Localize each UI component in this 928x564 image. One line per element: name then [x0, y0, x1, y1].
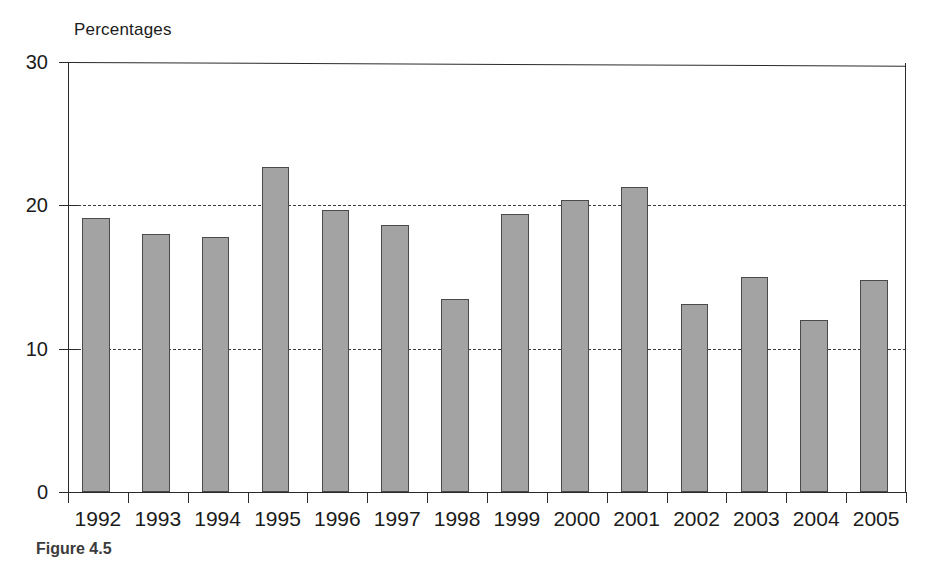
x-tick [248, 492, 249, 503]
x-tick-label: 1993 [128, 508, 188, 529]
x-tick-label: 2002 [667, 508, 727, 529]
x-axis-line [59, 492, 907, 493]
gridline [68, 205, 906, 206]
figure-container: Percentages 1992199319941995199619971998… [0, 0, 928, 564]
bar [681, 304, 709, 492]
bar [621, 187, 649, 492]
y-tick [59, 205, 78, 206]
bar [501, 214, 529, 492]
x-tick-label: 2004 [786, 508, 846, 529]
bar [561, 200, 589, 492]
x-tick [547, 492, 548, 503]
bar [741, 277, 769, 492]
x-tick [726, 492, 727, 503]
x-tick [307, 492, 308, 503]
y-tick [59, 62, 78, 63]
x-tick-label: 2001 [607, 508, 667, 529]
x-tick-label: 2005 [846, 508, 906, 529]
bar [142, 234, 170, 492]
y-tick-label: 30 [8, 52, 48, 72]
bar [381, 225, 409, 492]
plot-area: 1992199319941995199619971998199920002001… [68, 62, 906, 492]
y-tick-label: 20 [8, 195, 48, 215]
x-tick [667, 492, 668, 503]
x-tick [188, 492, 189, 503]
x-tick [846, 492, 847, 503]
x-tick [607, 492, 608, 503]
bar [82, 218, 110, 492]
x-tick [68, 492, 69, 503]
x-tick-label: 1999 [487, 508, 547, 529]
bar [202, 237, 230, 492]
x-tick-label: 1996 [307, 508, 367, 529]
y-axis-title: Percentages [74, 20, 172, 40]
plot-frame-top [68, 62, 906, 67]
bar [322, 210, 350, 492]
x-tick [906, 492, 907, 503]
x-tick-label: 2000 [547, 508, 607, 529]
bar [262, 167, 290, 492]
plot-frame-right [905, 63, 906, 493]
gridline [68, 349, 906, 350]
x-tick-label: 1998 [427, 508, 487, 529]
y-tick-label: 10 [8, 339, 48, 359]
x-tick [367, 492, 368, 503]
bar [800, 320, 828, 492]
x-tick [427, 492, 428, 503]
x-tick [786, 492, 787, 503]
x-tick-label: 1997 [367, 508, 427, 529]
bar [860, 280, 888, 492]
x-tick-label: 2003 [726, 508, 786, 529]
bar [441, 299, 469, 493]
y-axis-line [68, 62, 69, 493]
figure-caption: Figure 4.5 [36, 540, 896, 564]
figure-caption-label: Figure 4.5 [36, 540, 112, 557]
x-tick [128, 492, 129, 503]
y-tick [59, 349, 78, 350]
x-tick-label: 1995 [248, 508, 308, 529]
x-tick [487, 492, 488, 503]
x-tick-label: 1992 [68, 508, 128, 529]
y-tick-label: 0 [8, 482, 48, 502]
x-tick-label: 1994 [188, 508, 248, 529]
